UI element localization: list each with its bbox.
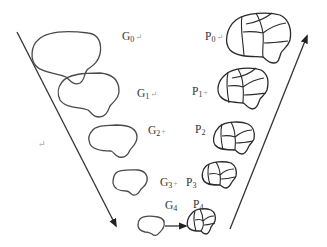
downsample-arrow	[17, 32, 116, 226]
plus-mark-icon: +	[173, 179, 178, 188]
label-g2: G2+	[148, 125, 166, 138]
patch-p2	[214, 122, 255, 154]
patch-p3	[202, 162, 236, 188]
return-mark-icon: ↵	[135, 33, 142, 42]
label-subscript: 2	[201, 128, 205, 137]
blob-g3	[113, 170, 147, 195]
label-subscript: 4	[173, 204, 177, 213]
label-subscript: 2	[156, 129, 160, 138]
patch-p1	[218, 68, 268, 109]
blob-g4	[138, 216, 164, 235]
plus-mark-icon: +	[203, 88, 208, 97]
label-subscript: 0	[130, 35, 134, 44]
label-p2: P2	[195, 124, 205, 137]
label-subscript: 0	[211, 35, 215, 44]
plus-mark-icon: +	[161, 127, 166, 136]
pyramid-diagram	[0, 0, 327, 247]
label-g0: G0↵	[122, 31, 142, 44]
label-g3: G3+	[160, 177, 178, 190]
label-g1: G1↵	[137, 88, 157, 101]
label-subscript: 4	[199, 203, 203, 212]
blob-g2	[89, 125, 137, 157]
label-subscript: 1	[198, 90, 202, 99]
label-p1: P1+	[192, 86, 208, 99]
label-p0: P0↵	[205, 31, 223, 44]
return-mark-icon: ↵	[216, 33, 223, 42]
label-p4: P4	[193, 199, 203, 212]
label-subscript: 3	[192, 181, 196, 190]
label-subscript: 1	[145, 92, 149, 101]
label-p3: P3	[186, 177, 196, 190]
blob-g0	[32, 32, 101, 84]
return-mark-icon: ↵	[150, 90, 157, 99]
blob-g1	[58, 73, 119, 117]
return-mark-icon: ↵	[38, 139, 46, 149]
patch-p4	[187, 209, 215, 234]
label-subscript: 3	[168, 181, 172, 190]
label-g4: G4	[165, 200, 177, 213]
patch-p0	[227, 13, 291, 63]
